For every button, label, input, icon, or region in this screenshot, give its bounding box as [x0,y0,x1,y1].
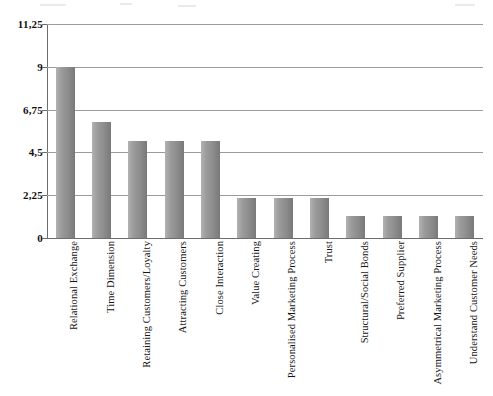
x-axis-tick-label: Personalised Marketing Process [287,241,298,378]
x-axis-tick-label-text: Attracting Customers [178,241,189,333]
x-axis-tick-label-text: Value Creating [251,241,262,305]
bar [128,141,147,238]
x-axis-tick-label: Understand Customer Needs [469,241,480,364]
x-axis-tick-label-text: Relational Exchange [69,241,80,330]
bar-chart: 02,254,56,75911,25 Relational ExchangeTi… [0,0,493,396]
x-axis-tick-label: Relational Exchange [69,241,80,330]
x-axis-tick-label: Asymmetrical Marketing Process [433,241,444,385]
y-axis-tick-label: 6,75 [3,105,43,116]
bar [455,216,474,238]
bar [165,141,184,238]
x-axis-labels: Relational ExchangeTime DimensionRetaini… [47,241,483,391]
x-axis-tick-label-text: Understand Customer Needs [469,241,480,364]
x-axis-tick-label-text: Trust [324,241,335,263]
x-axis-tick-label-text: Asymmetrical Marketing Process [433,241,444,385]
bar [310,198,329,238]
bar [383,216,402,238]
bar [346,216,365,238]
y-axis-tick-label: 0 [3,233,43,244]
x-axis-tick-label: Time Dimension [106,241,117,313]
bars-layer [47,24,483,238]
y-axis: 02,254,56,75911,25 [0,0,43,396]
x-axis-tick-label-text: Structural/Social Bonds [360,241,371,343]
x-axis-tick-label: Structural/Social Bonds [360,241,371,343]
x-axis-tick-label: Retaining Customers/Loyalty [142,241,153,368]
x-axis-tick-label: Close Interaction [215,241,226,315]
x-axis-tick-label-text: Close Interaction [215,241,226,315]
scan-artifacts [0,0,493,20]
bar [419,216,438,238]
y-axis-tick-label: 9 [3,62,43,73]
bar [237,198,256,238]
x-axis-tick-label-text: Retaining Customers/Loyalty [142,241,153,368]
x-axis-tick-label: Trust [324,241,335,263]
y-axis-tick-label: 2,25 [3,190,43,201]
x-axis-tick-label: Value Creating [251,241,262,305]
x-axis-tick-label-text: Time Dimension [106,241,117,313]
x-axis-tick-label: Attracting Customers [178,241,189,333]
bar [92,122,111,238]
y-axis-tick-label: 4,5 [3,147,43,158]
x-axis-baseline [47,238,483,239]
x-axis-tick-label-text: Preferred Supplier [396,241,407,320]
y-axis-tick-label: 11,25 [3,19,43,30]
x-axis-tick-label-text: Personalised Marketing Process [287,241,298,378]
bar [274,198,293,238]
bar [56,67,75,238]
bar [201,141,220,238]
x-axis-tick-label: Preferred Supplier [396,241,407,320]
